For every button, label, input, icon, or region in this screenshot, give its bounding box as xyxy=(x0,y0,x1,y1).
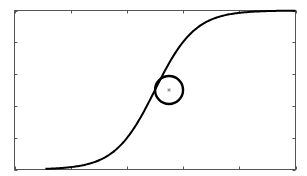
sigmoid-chart xyxy=(0,0,307,176)
center-star-marker xyxy=(167,88,171,92)
